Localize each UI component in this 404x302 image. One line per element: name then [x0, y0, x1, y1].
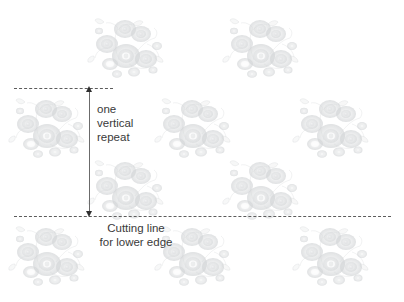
cutting-line-label: Cutting line for lower edge — [88, 221, 184, 249]
measure-arrowhead-down-icon — [86, 211, 92, 217]
cutting-line-dashed-line — [14, 216, 391, 217]
vertical-repeat-measure-line — [89, 89, 90, 215]
floral-motif — [6, 84, 98, 162]
floral-motif — [152, 84, 244, 162]
floral-motif — [220, 146, 312, 224]
upper-repeat-dashed-line — [14, 88, 113, 89]
floral-motif — [6, 212, 98, 290]
floral-motif — [85, 4, 177, 82]
vertical-repeat-label: one vertical repeat — [97, 102, 157, 144]
floral-motif — [290, 212, 382, 290]
floral-motif — [220, 4, 312, 82]
repeat-diagram-canvas: one vertical repeat Cutting line for low… — [0, 0, 404, 302]
floral-motif — [290, 84, 382, 162]
measure-arrowhead-up-icon — [86, 86, 92, 92]
floral-motif — [85, 146, 177, 224]
